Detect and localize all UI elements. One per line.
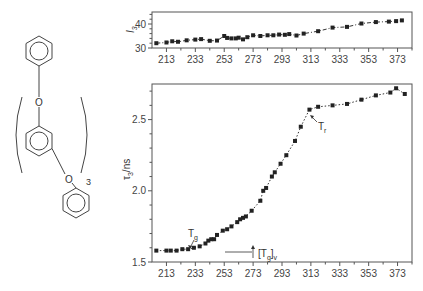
- bottom-data-point: [250, 209, 254, 213]
- top-data-point: [266, 33, 270, 37]
- top-x-tick-label: 333: [331, 54, 348, 65]
- top-y-tick-label: 30: [135, 43, 147, 54]
- top-data-point: [331, 26, 335, 30]
- top-data-point: [302, 32, 306, 36]
- bottom-x-tick-label: 233: [187, 268, 204, 279]
- top-x-tick-label: 313: [303, 54, 320, 65]
- top-x-tick-label: 353: [360, 54, 377, 65]
- aromatic-circle-middle: [30, 132, 48, 150]
- bottom-data-point: [169, 249, 173, 253]
- top-x-tick-label: 233: [187, 54, 204, 65]
- bottom-x-tick-label: 273: [245, 268, 262, 279]
- bottom-x-tick-label: 313: [303, 268, 320, 279]
- left-bracket: [16, 97, 22, 173]
- right-bracket: [81, 97, 87, 173]
- top-data-point: [387, 20, 391, 24]
- bottom-x-tick-label: 333: [331, 268, 348, 279]
- bottom-x-tick-label: 293: [274, 268, 291, 279]
- top-data-point: [241, 37, 245, 41]
- bottom-data-point: [307, 108, 311, 112]
- oxygen-label-2: O: [65, 174, 73, 185]
- bottom-data-point: [164, 249, 168, 253]
- top-data-point: [176, 40, 180, 44]
- top-data-point: [345, 25, 349, 29]
- top-data-point: [283, 33, 287, 37]
- bottom-data-point: [374, 93, 378, 97]
- bottom-x-tick-label: 353: [360, 268, 377, 279]
- top-data-point: [215, 39, 219, 43]
- top-data-point: [208, 39, 212, 43]
- bottom-data-point: [264, 186, 268, 190]
- top-chart-panel: 2132332532732933133333533733040 I3: [125, 12, 412, 65]
- top-data-point: [237, 36, 241, 40]
- top-x-tick-label: 273: [245, 54, 262, 65]
- bottom-data-point: [403, 92, 407, 96]
- bottom-data-point: [180, 247, 184, 251]
- bottom-data-point: [215, 233, 219, 237]
- bottom-data-point: [345, 102, 349, 106]
- bottom-data-point: [270, 175, 274, 179]
- bottom-data-point: [258, 199, 262, 203]
- top-x-tick-label: 293: [274, 54, 291, 65]
- annotation-tr: Tr: [318, 121, 327, 134]
- bottom-data-point: [279, 162, 283, 166]
- bottom-data-point: [198, 244, 202, 248]
- top-data-point: [374, 20, 378, 24]
- repeat-subscript: 3: [86, 177, 91, 187]
- bottom-data-point: [284, 153, 288, 157]
- bottom-data-point: [192, 246, 196, 250]
- top-y-axis-label: I3: [125, 26, 138, 33]
- bottom-data-point: [273, 170, 277, 174]
- bottom-y-tick-label: 1.5: [132, 257, 146, 268]
- top-data-point: [193, 38, 197, 42]
- bottom-data-point: [293, 139, 297, 143]
- top-data-point: [287, 32, 291, 36]
- bottom-data-point: [154, 249, 158, 253]
- top-plot-frame: [152, 12, 412, 48]
- top-data-point: [394, 19, 398, 23]
- top-data-point: [199, 37, 203, 41]
- top-data-point: [154, 41, 158, 45]
- aromatic-circle-top: [30, 42, 48, 60]
- annotation-tgv: [Tg]v: [258, 248, 278, 262]
- top-data-point: [400, 18, 404, 22]
- bottom-data-point: [225, 227, 229, 231]
- top-data-point: [251, 33, 255, 37]
- bottom-data-point: [212, 237, 216, 241]
- oxygen-label-1: O: [35, 97, 43, 108]
- top-data-point: [258, 34, 262, 38]
- bottom-data-point: [316, 105, 320, 109]
- top-data-point: [229, 36, 233, 40]
- figure: O O 3 2132332532732933133333533733040 I3…: [0, 0, 423, 291]
- molecule-structure: [16, 36, 89, 218]
- top-data-point: [359, 22, 363, 26]
- top-data-point: [316, 29, 320, 33]
- aromatic-circle-bottom: [67, 194, 85, 212]
- bottom-data-point: [229, 224, 233, 228]
- bottom-data-point: [394, 86, 398, 90]
- bottom-data-point: [331, 103, 335, 107]
- bottom-x-tick-label: 373: [389, 268, 406, 279]
- top-data-point: [271, 33, 275, 37]
- tgv-arrowhead-icon: [251, 245, 255, 249]
- top-data-point: [164, 40, 168, 44]
- top-data-point: [245, 35, 249, 39]
- bottom-data-point: [388, 91, 392, 95]
- top-x-tick-label: 213: [158, 54, 175, 65]
- top-x-tick-label: 373: [389, 54, 406, 65]
- top-fit-line: [156, 20, 402, 43]
- bottom-data-point: [221, 229, 225, 233]
- bottom-y-axis-label: τ3/ns: [121, 159, 134, 180]
- bottom-data-point: [175, 249, 179, 253]
- top-data-point: [277, 33, 281, 37]
- top-data-point: [294, 34, 298, 38]
- top-data-point: [170, 39, 174, 43]
- annotation-tg: Tg: [188, 228, 198, 242]
- top-x-tick-label: 253: [216, 54, 233, 65]
- bottom-data-point: [244, 214, 248, 218]
- bottom-fit-line: [156, 88, 404, 250]
- bottom-x-tick-label: 253: [216, 268, 233, 279]
- bottom-y-tick-label: 2.5: [132, 114, 146, 125]
- bottom-data-point: [359, 98, 363, 102]
- top-data-point: [225, 36, 229, 40]
